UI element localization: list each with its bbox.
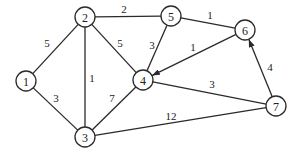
node-label: 7	[273, 100, 279, 114]
node-4: 4	[133, 70, 153, 90]
edge-weight-2-3: 1	[89, 72, 95, 84]
edge-weight-6-4: 1	[190, 41, 196, 53]
node-6: 6	[235, 20, 255, 40]
edge-weight-3-7: 12	[166, 110, 177, 122]
node-label: 2	[82, 11, 88, 25]
node-7: 7	[266, 96, 286, 116]
edge-1-2	[33, 24, 78, 73]
node-3: 3	[75, 127, 95, 147]
edge-weight-1-3: 3	[53, 92, 59, 104]
node-1: 1	[16, 71, 36, 91]
edge-2-5	[95, 16, 161, 17]
edge-weight-1-2: 5	[44, 37, 50, 49]
edge-weight-5-4: 3	[149, 39, 155, 51]
edge-weight-3-4: 7	[109, 92, 115, 104]
node-label: 3	[82, 131, 88, 145]
edge-weight-2-5: 2	[121, 3, 127, 15]
edge-weight-7-6: 4	[267, 61, 273, 73]
node-label: 5	[168, 10, 174, 24]
node-5: 5	[161, 6, 181, 26]
node-label: 6	[242, 24, 248, 38]
graph-diagram: 5315271231143 1234567	[0, 0, 301, 155]
node-2: 2	[75, 7, 95, 27]
edge-weight-2-4: 5	[117, 37, 123, 49]
node-label: 4	[140, 74, 146, 88]
edge-3-7	[95, 108, 266, 136]
edge-weight-5-6: 1	[207, 9, 213, 21]
node-label: 1	[23, 75, 29, 89]
edge-weight-4-7: 3	[209, 78, 215, 90]
edge-2-4	[92, 24, 136, 72]
